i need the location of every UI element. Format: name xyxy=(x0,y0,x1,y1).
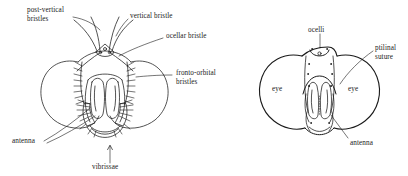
right-head-antenna-left-inner xyxy=(311,90,313,113)
left-head-frons-left-margin xyxy=(81,62,84,104)
left-head-post-vertical-bristle-b xyxy=(91,17,100,51)
left-head-gena-right xyxy=(115,104,127,126)
leader-ocellar-bristle xyxy=(119,38,163,56)
label-ocelli: ocelli xyxy=(308,26,324,35)
right-head-eye-left xyxy=(259,55,305,129)
label-antenna-left: antenna xyxy=(12,137,35,146)
left-head-antenna-left-inner xyxy=(94,86,96,111)
label-eye-right: eye xyxy=(348,85,358,94)
label-fronto-orbital-bristles: fronto-orbital bristles xyxy=(176,69,216,87)
left-head-eye-right xyxy=(110,61,168,128)
left-head-antenna-right-outer xyxy=(106,78,120,118)
label-vibrissae: vibrissae xyxy=(92,163,118,172)
leader-post-vertical-bristles xyxy=(73,17,100,30)
leader-ptilinal-suture xyxy=(340,51,373,84)
left-head-frons-right-margin xyxy=(125,62,128,104)
label-vertical-bristle: vertical bristle xyxy=(130,12,173,21)
right-head-outline xyxy=(302,47,337,56)
right-head-gena-left xyxy=(306,112,310,131)
left-head-facial-ridge-right xyxy=(120,80,125,122)
label-ptilinal-suture: ptilinal suture xyxy=(375,44,396,62)
label-ocellar-bristle: ocellar bristle xyxy=(166,32,207,41)
leader-lines xyxy=(44,17,373,163)
right-head-suture-punctures xyxy=(308,49,333,124)
label-antenna-right: antenna xyxy=(350,139,373,148)
left-head-facial-ridge-left xyxy=(85,80,90,122)
right-head-ocellus xyxy=(318,52,321,55)
leader-fronto-orbital-bristles xyxy=(136,75,172,77)
left-head-antenna-right-inner xyxy=(114,86,116,111)
right-head-clypeus xyxy=(309,127,330,132)
left-head-antenna-left-outer xyxy=(91,78,105,118)
figure-plate: post-vertical bristles vertical bristle … xyxy=(0,0,408,176)
left-head-vertical-bristle-a xyxy=(112,20,133,51)
leader-vertical-bristle xyxy=(116,19,128,36)
left-head-ocellar-bristle-left xyxy=(77,52,101,71)
label-post-vertical-bristles: post-vertical bristles xyxy=(27,6,64,24)
label-eye-left: eye xyxy=(272,85,282,94)
anatomy-line-art xyxy=(0,0,408,176)
left-head-face-arch xyxy=(88,74,122,80)
right-head-antenna-right-inner xyxy=(326,90,328,113)
ocellus-median xyxy=(104,48,107,51)
leader-antenna-right xyxy=(331,115,348,138)
left-head-drawing xyxy=(41,17,168,138)
